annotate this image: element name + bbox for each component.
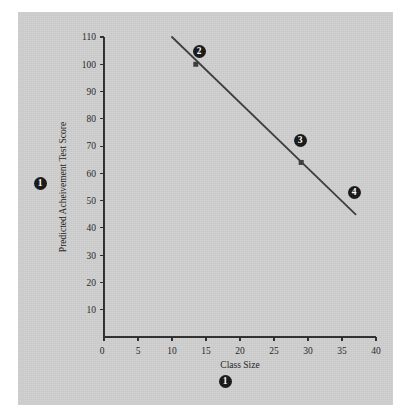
y-tick-label-90: 90 [87, 87, 97, 97]
y-tick-label-60: 60 [87, 169, 97, 179]
data-point-1 [299, 160, 304, 165]
x-tick-label-20: 20 [235, 346, 245, 356]
y-axis-title: Predicted Acheivement Test Score [58, 122, 68, 252]
y-tick-label-70: 70 [87, 141, 97, 151]
y-tick-label-10: 10 [87, 305, 97, 315]
series-group [172, 37, 356, 214]
data-point-0 [193, 62, 198, 67]
x-tick-label-35: 35 [337, 346, 347, 356]
callout-1-0: 1 [34, 177, 47, 190]
x-axis-ticks: 510152025303540 [104, 337, 381, 356]
trend-line-0 [172, 37, 356, 214]
x-tick-label-5: 5 [136, 346, 141, 356]
y-tick-label-40: 40 [87, 223, 97, 233]
x-tick-label-40: 40 [371, 346, 381, 356]
y-tick-label-30: 30 [87, 251, 97, 261]
y-tick-label-100: 100 [82, 60, 97, 70]
data-point-markers [193, 62, 303, 165]
x-tick-label-30: 30 [303, 346, 313, 356]
y-tick-label-80: 80 [87, 114, 97, 124]
y-tick-label-20: 20 [87, 278, 97, 288]
scatter-line-plot: 0102030405060708090100110 51015202530354… [18, 12, 393, 405]
callout-3-2: 3 [294, 134, 307, 147]
callout-4-3: 4 [348, 186, 361, 199]
x-tick-label-15: 15 [201, 346, 211, 356]
callout-1-4: 1 [219, 375, 232, 388]
figure-panel: 0102030405060708090100110 51015202530354… [18, 12, 393, 405]
x-tick-label-10: 10 [167, 346, 177, 356]
y-tick-label-110: 110 [82, 32, 96, 42]
y-tick-label-50: 50 [87, 196, 97, 206]
callout-2-1: 2 [193, 45, 206, 58]
y-tick-label-0: 0 [100, 346, 105, 356]
x-axis-title: Class Size [220, 360, 259, 370]
y-axis-ticks: 0102030405060708090100110 [82, 32, 105, 356]
x-tick-label-25: 25 [269, 346, 279, 356]
axes-group [104, 37, 376, 337]
